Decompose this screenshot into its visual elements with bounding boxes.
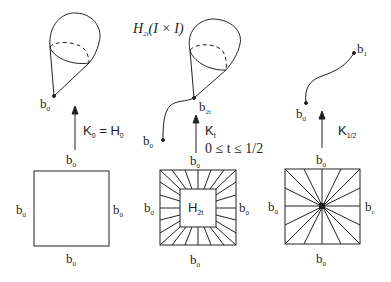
middle-range-label: 0 ≤ t ≤ 1/2 [205, 142, 263, 156]
right-square-left-label: b0 [268, 200, 278, 216]
middle-tail-label: b0 [143, 134, 153, 150]
right-start-dot [305, 102, 308, 105]
right-start-label: b0 [296, 107, 306, 123]
right-end-dot [353, 52, 356, 55]
left-square-left-label: b0 [16, 203, 26, 219]
middle-apex-label: b2t [199, 100, 211, 116]
right-arrow-label: K1/2 [338, 124, 356, 139]
left-arrow-label: K0 = H0 [83, 124, 124, 139]
left-square [34, 171, 109, 246]
middle-apex-dot [193, 97, 196, 100]
middle-square-bottom-label: b0 [190, 253, 200, 269]
right-arrow-icon [319, 111, 325, 148]
middle-arrow-icon [193, 115, 199, 153]
middle-tail-dot [162, 139, 165, 142]
right-end-label: b1 [357, 42, 367, 58]
left-basepoint-label: b0 [40, 97, 50, 113]
right-square-right-label: bc [365, 200, 375, 216]
middle-title-label: H2t(I × I) [133, 22, 184, 38]
right-square-bottom-label: b0 [316, 252, 326, 268]
middle-square-left-label: b0 [144, 201, 154, 217]
left-square-top-label: b0 [66, 153, 76, 169]
left-arrow-icon [72, 106, 78, 150]
middle-arrow-label: Kt [205, 124, 216, 139]
right-center-point [319, 203, 325, 209]
left-basepoint-dot [53, 95, 56, 98]
diagram-drawing [0, 0, 391, 282]
middle-square-right-label: b0 [239, 201, 249, 217]
left-lasso-shape [50, 13, 100, 96]
middle-square-inner-label: H2t [188, 201, 203, 216]
left-square-right-label: b0 [113, 203, 123, 219]
right-square-top-label: b0 [316, 153, 326, 169]
right-path-curve [306, 53, 354, 103]
left-square-bottom-label: b0 [66, 252, 76, 268]
middle-square-top-label: b0 [190, 154, 200, 170]
homotopy-diagram: b0 K0 = H0 b0 b0 b0 b0 H2t(I × I) b2t b0… [0, 0, 391, 282]
